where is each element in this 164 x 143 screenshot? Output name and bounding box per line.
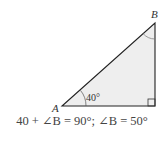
vertex-label-a: A — [52, 103, 59, 114]
angle-a-label: 40° — [86, 93, 100, 103]
vertex-label-b: B — [151, 9, 158, 20]
equation-text: 40 + ∠B = 90°; ∠B = 50° — [0, 115, 164, 128]
triangle-shape — [62, 23, 155, 106]
